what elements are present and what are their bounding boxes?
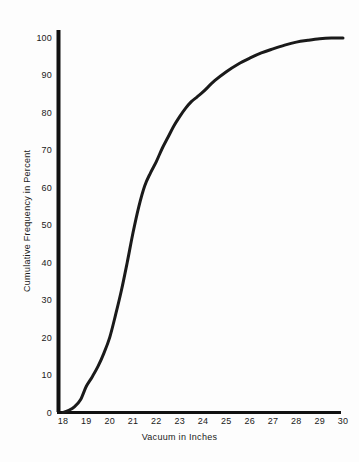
cumulative-frequency-chart: 0102030405060708090100 18192021222324252… [0, 0, 359, 462]
y-tick-label: 60 [30, 183, 52, 193]
x-axis-title: Vacuum in Inches [0, 432, 359, 442]
y-tick-label: 0 [30, 408, 52, 418]
y-tick-label: 90 [30, 70, 52, 80]
y-tick-label: 100 [30, 33, 52, 43]
x-tick-label: 24 [198, 416, 208, 426]
x-tick-label: 18 [58, 416, 68, 426]
y-axis-title: Cumulative Frequency in Percent [22, 150, 32, 292]
y-tick-label: 50 [30, 220, 52, 230]
x-tick-label: 28 [291, 416, 301, 426]
x-tick-label: 30 [338, 416, 348, 426]
x-tick-label: 23 [174, 416, 184, 426]
plot-area [0, 0, 359, 462]
x-tick-label: 27 [268, 416, 278, 426]
y-tick-label: 70 [30, 145, 52, 155]
y-tick-label: 20 [30, 333, 52, 343]
cumulative-frequency-curve [63, 38, 343, 413]
x-tick-label: 22 [151, 416, 161, 426]
y-tick-label: 80 [30, 108, 52, 118]
y-tick-label: 10 [30, 370, 52, 380]
y-tick-label: 40 [30, 258, 52, 268]
y-tick-label: 30 [30, 295, 52, 305]
x-tick-label: 20 [104, 416, 114, 426]
x-tick-label: 21 [128, 416, 138, 426]
x-tick-label: 19 [81, 416, 91, 426]
x-tick-label: 26 [244, 416, 254, 426]
x-tick-label: 25 [221, 416, 231, 426]
x-tick-label: 29 [314, 416, 324, 426]
